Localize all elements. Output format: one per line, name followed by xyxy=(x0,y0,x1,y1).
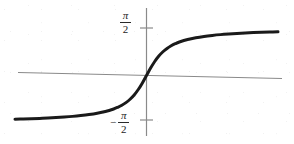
fraction-numerator: π xyxy=(121,10,131,22)
fraction-denominator: 2 xyxy=(119,123,129,135)
y-tick-label-positive-pi-over-2: π 2 xyxy=(118,10,131,35)
fraction-pi-over-2-positive: π 2 xyxy=(120,10,131,35)
plot-area xyxy=(0,0,294,144)
arctangent-figure: π 2 − π 2 xyxy=(0,0,294,144)
tick-sign-negative: − xyxy=(110,117,116,128)
fraction-numerator: π xyxy=(119,110,129,122)
fraction-pi-over-2-negative: π 2 xyxy=(118,110,129,135)
x-axis xyxy=(18,73,282,79)
fraction-denominator: 2 xyxy=(121,23,131,35)
y-tick-label-negative-pi-over-2: − π 2 xyxy=(110,110,129,135)
